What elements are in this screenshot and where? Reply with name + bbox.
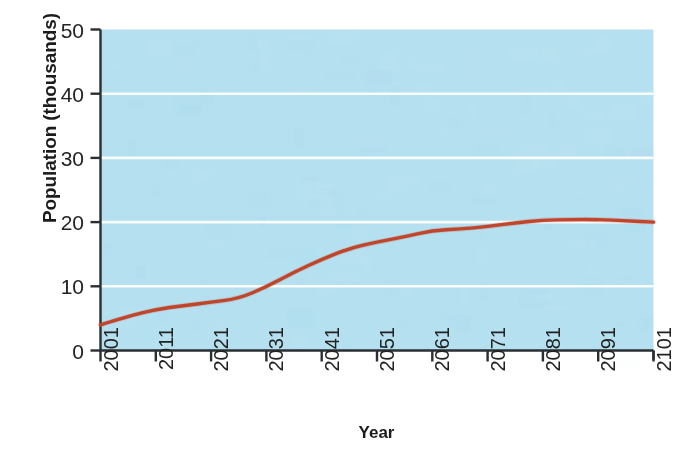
x-axis-title: Year bbox=[100, 423, 653, 443]
x-tick-label-2051: 2051 bbox=[377, 327, 397, 397]
x-tick-label-2081: 2081 bbox=[543, 327, 563, 397]
figure-canvas: · 01020304050 20012011202120312041205120… bbox=[0, 0, 679, 466]
x-tick-label-2101: 2101 bbox=[654, 327, 674, 397]
y-axis-title: Population (thousands) bbox=[39, 0, 61, 268]
x-tick-label-2071: 2071 bbox=[488, 327, 508, 397]
x-tick-label-2031: 2031 bbox=[266, 327, 286, 397]
clipped-text-bottom: · bbox=[0, 462, 679, 466]
x-tick-label-2061: 2061 bbox=[432, 327, 452, 397]
x-tick-label-2041: 2041 bbox=[322, 327, 342, 397]
x-tick-label-2091: 2091 bbox=[598, 327, 618, 397]
x-axis-tick-labels: 2001201120212031204120512061207120812091… bbox=[0, 0, 679, 466]
x-tick-label-2021: 2021 bbox=[211, 327, 231, 397]
x-tick-label-2001: 2001 bbox=[101, 327, 121, 397]
x-tick-label-2011: 2011 bbox=[156, 327, 176, 397]
